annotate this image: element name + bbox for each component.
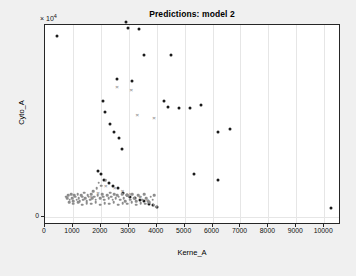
x-tick-label: 3000 — [113, 227, 143, 234]
scatter-point-dot — [113, 131, 116, 134]
scatter-point-dot — [138, 28, 141, 31]
scatter-point-dot — [95, 201, 98, 204]
gridline-vertical — [185, 25, 186, 223]
scatter-point-dot — [102, 100, 105, 103]
gridline-horizontal — [45, 217, 339, 218]
gridline-vertical — [268, 25, 269, 223]
x-axis-label: Kerne_A — [44, 248, 340, 257]
scatter-point-dot — [108, 203, 111, 206]
scatter-point-cross: × — [145, 197, 149, 203]
scatter-point-dot — [143, 193, 146, 196]
scatter-point-dot — [70, 193, 73, 196]
figure-canvas: Predictions: model 2 × 104 ×××××××××××× … — [0, 0, 356, 276]
scatter-point-cross: × — [128, 191, 132, 197]
scatter-point-cross: × — [152, 115, 156, 121]
y-axis-label: Cyto_A — [17, 83, 26, 143]
y-axis-exponent-label: × 104 — [40, 13, 57, 22]
scatter-point-dot — [72, 203, 75, 206]
scatter-point-dot — [118, 136, 121, 139]
gridline-vertical — [240, 25, 241, 223]
gridline-vertical — [296, 25, 297, 223]
x-tick-label: 2000 — [85, 227, 115, 234]
scatter-point-cross: × — [121, 188, 125, 194]
scatter-point-dot — [126, 203, 129, 206]
scatter-point-dot — [127, 26, 130, 29]
x-tick-label: 5000 — [169, 227, 199, 234]
scatter-point-dot — [163, 100, 166, 103]
scatter-point-dot — [103, 198, 106, 201]
scatter-point-dot — [90, 203, 93, 206]
scatter-point-dot — [130, 80, 133, 83]
scatter-point-dot — [153, 203, 156, 206]
scatter-point-dot — [103, 202, 106, 205]
y-exponent-base: × 10 — [40, 15, 54, 22]
scatter-point-dot — [151, 198, 154, 201]
x-tick-label: 10000 — [308, 227, 338, 234]
scatter-point-dot — [104, 111, 107, 114]
scatter-point-dot — [99, 203, 102, 206]
scatter-point-dot — [119, 198, 122, 201]
scatter-point-dot — [112, 201, 115, 204]
scatter-point-dot — [330, 207, 333, 210]
scatter-point-cross: × — [130, 87, 134, 93]
scatter-point-dot — [217, 131, 220, 134]
scatter-point-dot — [56, 35, 59, 38]
scatter-point-dot — [117, 203, 120, 206]
scatter-point-dot — [143, 53, 146, 56]
x-tick-label: 6000 — [197, 227, 227, 234]
scatter-point-dot — [121, 147, 124, 150]
scatter-point-dot — [139, 202, 142, 205]
y-exponent-power: 4 — [54, 13, 57, 19]
scatter-point-dot — [167, 105, 170, 108]
scatter-point-dot — [124, 21, 127, 24]
scatter-point-dot — [109, 191, 112, 194]
scatter-point-dot — [81, 203, 84, 206]
y-tick-label: 0 — [22, 212, 39, 219]
gridline-vertical — [157, 25, 158, 223]
scatter-point-dot — [116, 77, 119, 80]
scatter-point-dot — [121, 202, 124, 205]
scatter-point-dot — [76, 193, 79, 196]
scatter-point-dot — [135, 200, 138, 203]
x-tick-label: 4000 — [141, 227, 171, 234]
scatter-point-dot — [100, 184, 103, 187]
scatter-point-dot — [68, 201, 71, 204]
x-tick-label: 0 — [29, 227, 59, 234]
gridline-vertical — [324, 25, 325, 223]
scatter-point-dot — [77, 201, 80, 204]
scatter-point-dot — [99, 197, 102, 200]
gridline-vertical — [213, 25, 214, 223]
scatter-point-dot — [105, 179, 108, 182]
x-tick-label: 1000 — [57, 227, 87, 234]
scatter-point-dot — [92, 190, 95, 193]
scatter-point-dot — [178, 107, 181, 110]
scatter-point-dot — [199, 104, 202, 107]
scatter-point-dot — [229, 128, 232, 131]
y-tick-mark — [41, 216, 44, 217]
scatter-point-dot — [108, 122, 111, 125]
scatter-point-dot — [217, 178, 220, 181]
chart-title: Predictions: model 2 — [44, 9, 340, 19]
scatter-point-cross: × — [104, 183, 108, 189]
scatter-point-dot — [155, 205, 158, 208]
scatter-point-dot — [83, 191, 86, 194]
scatter-point-dot — [100, 173, 103, 176]
scatter-point-cross: × — [138, 194, 142, 200]
scatter-point-cross: × — [96, 190, 100, 196]
x-tick-label: 8000 — [252, 227, 282, 234]
scatter-point-dot — [192, 173, 195, 176]
scatter-point-dot — [153, 194, 156, 197]
scatter-point-cross: × — [113, 185, 117, 191]
scatter-point-cross: × — [90, 194, 94, 200]
scatter-point-cross: × — [115, 84, 119, 90]
scatter-point-dot — [144, 203, 147, 206]
scatter-point-dot — [169, 53, 172, 56]
scatter-point-cross: × — [135, 112, 139, 118]
x-tick-label: 7000 — [224, 227, 254, 234]
x-tick-label: 9000 — [280, 227, 310, 234]
scatter-point-dot — [86, 202, 89, 205]
plot-area: ×××××××××××× — [44, 24, 340, 224]
scatter-point-dot — [130, 201, 133, 204]
scatter-point-dot — [188, 107, 191, 110]
scatter-point-dot — [135, 203, 138, 206]
